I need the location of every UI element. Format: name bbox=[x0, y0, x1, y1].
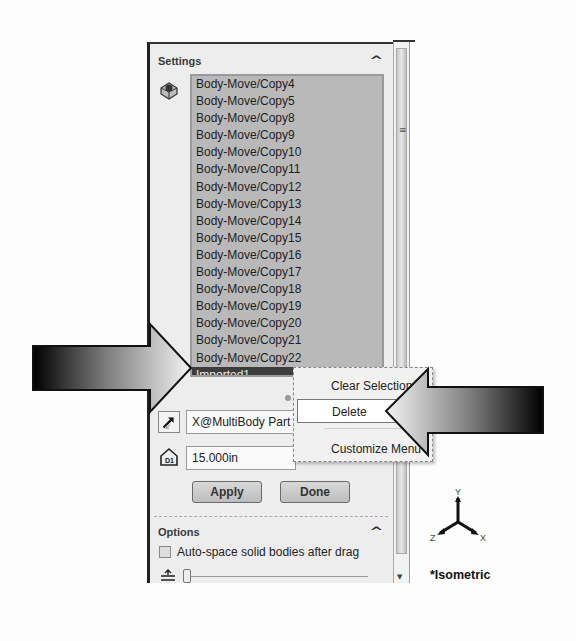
list-item[interactable]: Body-Move/Copy4 bbox=[192, 76, 382, 93]
solid-bodies-icon bbox=[158, 80, 180, 100]
list-item[interactable]: Body-Move/Copy17 bbox=[192, 264, 382, 281]
list-item[interactable]: Body-Move/Copy14 bbox=[192, 213, 382, 230]
list-item[interactable]: Body-Move/Copy20 bbox=[192, 315, 382, 332]
list-item[interactable]: Body-Move/Copy9 bbox=[192, 127, 382, 144]
auto-space-label: Auto-space solid bodies after drag bbox=[177, 545, 359, 559]
options-collapse-chevron-up-icon[interactable]: ^ bbox=[369, 524, 383, 539]
list-item[interactable]: Body-Move/Copy10 bbox=[192, 144, 382, 161]
callout-arrow-right-icon bbox=[32, 322, 194, 414]
scroll-down-arrow-icon[interactable]: ▼ bbox=[397, 573, 402, 581]
list-item[interactable]: Body-Move/Copy22 bbox=[192, 350, 382, 367]
settings-collapse-chevron-up-icon[interactable]: ^ bbox=[369, 53, 383, 68]
menu-item-delete[interactable]: Delete bbox=[297, 399, 397, 423]
settings-section-title: Settings bbox=[158, 55, 201, 67]
view-triad-icon: Y Z X bbox=[428, 486, 498, 548]
svg-text:D1: D1 bbox=[165, 457, 174, 464]
list-item[interactable]: Body-Move/Copy5 bbox=[192, 93, 382, 110]
scrollbar-thumb[interactable]: ≡ bbox=[396, 48, 407, 554]
scrollbar-grip-icon: ≡ bbox=[399, 129, 405, 132]
spacing-icon bbox=[160, 568, 176, 582]
property-manager-panel: Settings ^ Body-Move/Copy4 Body-Move/Cop… bbox=[147, 42, 393, 583]
triad-y-label: Y bbox=[455, 487, 461, 497]
panel-scrollbar[interactable]: ≡ ▼ bbox=[393, 42, 410, 583]
list-item[interactable]: Body-Move/Copy19 bbox=[192, 298, 382, 315]
svg-text:Z: Z bbox=[430, 533, 436, 543]
distance-input[interactable]: 15.000in bbox=[186, 446, 296, 470]
auto-space-checkbox[interactable] bbox=[159, 546, 171, 558]
svg-text:X: X bbox=[480, 533, 486, 543]
distance-icon: D1 bbox=[158, 446, 180, 468]
list-item[interactable]: Body-Move/Copy13 bbox=[192, 196, 382, 213]
section-divider bbox=[154, 516, 388, 517]
direction-reference-field[interactable]: X@MultiBody Part bbox=[186, 410, 296, 434]
list-item[interactable]: Body-Move/Copy18 bbox=[192, 281, 382, 298]
view-orientation-label: *Isometric bbox=[430, 568, 490, 582]
list-item[interactable]: Body-Move/Copy15 bbox=[192, 230, 382, 247]
options-section-title: Options bbox=[158, 526, 200, 538]
list-resize-handle[interactable] bbox=[285, 395, 291, 401]
list-item[interactable]: Body-Move/Copy21 bbox=[192, 332, 382, 349]
spacing-slider-thumb[interactable] bbox=[183, 569, 191, 583]
direction-arrow-icon[interactable] bbox=[158, 411, 180, 433]
list-item[interactable]: Body-Move/Copy16 bbox=[192, 247, 382, 264]
callout-arrow-left-icon bbox=[384, 367, 546, 459]
list-item[interactable]: Body-Move/Copy8 bbox=[192, 110, 382, 127]
spacing-slider-track[interactable] bbox=[188, 576, 368, 577]
done-button[interactable]: Done bbox=[280, 481, 350, 503]
list-item[interactable]: Body-Move/Copy11 bbox=[192, 161, 382, 178]
apply-button[interactable]: Apply bbox=[192, 481, 262, 503]
bodies-to-move-list[interactable]: Body-Move/Copy4 Body-Move/Copy5 Body-Mov… bbox=[190, 74, 384, 377]
list-item[interactable]: Body-Move/Copy12 bbox=[192, 179, 382, 196]
